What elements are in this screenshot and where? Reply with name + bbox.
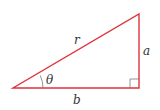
right-triangle-diagram: r a b θ <box>0 0 160 110</box>
angle-label: θ <box>46 73 54 87</box>
triangle <box>13 14 139 88</box>
hypotenuse-label: r <box>74 33 81 47</box>
right-angle-mark <box>130 79 139 88</box>
angle-arc <box>40 76 43 89</box>
horizontal-side-label: b <box>73 93 81 107</box>
vertical-side-label: a <box>143 44 150 58</box>
